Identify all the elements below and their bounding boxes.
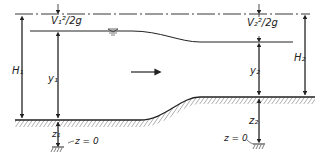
depth-2-label: y₂ — [250, 66, 260, 76]
velocity-head-1-label: V₁²/2g — [51, 16, 82, 26]
elevation-2-label: z₂ — [249, 116, 258, 126]
elevation-1-label: z₁ — [52, 130, 60, 139]
datum-symbol-1 — [51, 147, 64, 152]
channel-flow-diagram: V₁²/2g V₂²/2g H₁ y₁ y₂ H₂ z₁ z₂ z = 0 z … — [0, 0, 326, 162]
datum-1-label: z = 0 — [75, 137, 99, 146]
velocity-head-2-label: V₂²/2g — [247, 18, 278, 28]
free-surface-symbol — [108, 29, 118, 35]
total-head-2-label: H₂ — [294, 53, 306, 63]
datum-symbol-2 — [253, 144, 265, 149]
water-surface — [30, 31, 293, 42]
datum-2-label: z = 0 — [224, 134, 248, 143]
depth-1-label: y₁ — [48, 74, 58, 84]
total-head-1-label: H₁ — [12, 66, 24, 76]
